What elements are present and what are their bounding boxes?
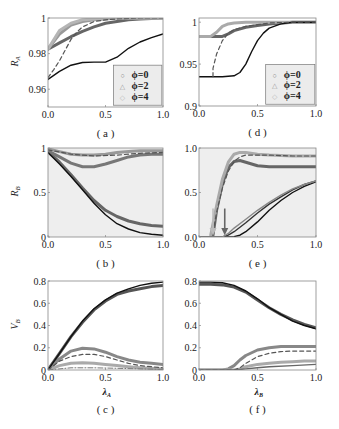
x-tick-label: 0.5 xyxy=(251,239,264,250)
y-tick-label: 1.0 xyxy=(185,143,198,154)
panel-f: 0.00.51.000.20.40.60.8λB( f ) xyxy=(185,276,323,417)
x-tick-label: 1.0 xyxy=(157,109,170,120)
x-tick-label: 0.5 xyxy=(99,372,112,383)
y-tick-label: 0.5 xyxy=(185,187,198,198)
panel-e: 0.00.51.00.00.51.0( e ) xyxy=(185,143,323,271)
x-tick-label: 1.0 xyxy=(310,239,323,250)
y-tick-label: 1 xyxy=(192,17,197,28)
y-tick-label: 0 xyxy=(192,365,197,376)
legend-marker-icon: △ xyxy=(272,82,278,90)
legend-label: ϕ=0 xyxy=(284,69,301,80)
plot-area xyxy=(199,148,316,237)
legend: ○ϕ=0△ϕ=2◇ϕ=4 xyxy=(266,65,315,105)
x-tick-label: 1.0 xyxy=(310,372,323,383)
legend-label: ϕ=4 xyxy=(284,90,301,101)
panel-caption: ( d ) xyxy=(248,126,267,139)
panel-caption: ( f ) xyxy=(249,403,266,416)
panel-d: 0.00.51.00.90.951( d )○ϕ=0△ϕ=2◇ϕ=4 xyxy=(180,17,323,139)
x-axis-label: λA xyxy=(102,386,111,398)
panel-c: 0.00.51.000.20.40.60.8VBλA( c ) xyxy=(9,276,169,417)
y-tick-label: 0.6 xyxy=(34,298,47,309)
y-tick-label: 0.8 xyxy=(185,276,198,287)
y-tick-label: 0.4 xyxy=(34,320,47,331)
legend-marker-icon: ◇ xyxy=(120,94,126,102)
legend-marker-icon: ◇ xyxy=(272,93,278,101)
panel-caption: ( e ) xyxy=(249,257,267,270)
y-tick-label: 0.5 xyxy=(34,187,47,198)
x-tick-label: 0.5 xyxy=(99,109,112,120)
y-axis-label: RB xyxy=(9,185,22,197)
panel-caption: ( b ) xyxy=(96,257,115,270)
y-tick-label: 0.8 xyxy=(34,276,47,287)
legend-marker-icon: ○ xyxy=(120,72,124,80)
legend-marker-icon: ○ xyxy=(273,72,277,80)
panel-a: 0.00.51.00.960.981RA( a )○ϕ=0△ϕ=2◇ϕ=4 xyxy=(9,13,169,141)
y-tick-label: 0.2 xyxy=(185,342,198,353)
x-tick-label: 1.0 xyxy=(157,239,170,250)
x-tick-label: 1.0 xyxy=(310,108,323,119)
y-tick-label: 0.6 xyxy=(185,298,198,309)
y-tick-label: 1 xyxy=(41,143,46,154)
legend-label: ϕ=4 xyxy=(132,91,149,102)
panel-caption: ( a ) xyxy=(97,127,115,140)
y-tick-label: 0 xyxy=(41,365,46,376)
y-tick-label: 0.98 xyxy=(29,48,47,59)
legend-label: ϕ=0 xyxy=(132,69,149,80)
x-tick-label: 0.5 xyxy=(251,108,264,119)
y-tick-label: 1 xyxy=(41,13,46,24)
y-tick-label: 0.96 xyxy=(29,84,47,95)
y-tick-label: 0.95 xyxy=(180,59,198,70)
y-tick-label: 0 xyxy=(41,232,46,243)
panel-b: 0.00.51.000.51RB( b ) xyxy=(9,143,169,271)
plot-area xyxy=(199,281,316,370)
y-tick-label: 0.0 xyxy=(185,232,198,243)
y-tick-label: 0.2 xyxy=(34,342,47,353)
y-tick-label: 0.9 xyxy=(185,101,198,112)
y-tick-label: 0.4 xyxy=(185,320,198,331)
figure: 0.00.51.00.960.981RA( a )○ϕ=0△ϕ=2◇ϕ=40.0… xyxy=(0,0,339,429)
y-axis-label: RA xyxy=(9,55,22,67)
panel-caption: ( c ) xyxy=(97,403,115,416)
x-tick-label: 0.0 xyxy=(42,109,55,120)
x-axis-label: λB xyxy=(254,386,263,398)
x-tick-label: 0.5 xyxy=(99,239,112,250)
x-tick-label: 1.0 xyxy=(157,372,170,383)
x-tick-label: 0.5 xyxy=(251,372,264,383)
legend: ○ϕ=0△ϕ=2◇ϕ=4 xyxy=(114,65,162,105)
legend-marker-icon: △ xyxy=(120,83,126,91)
y-axis-label: VB xyxy=(9,318,22,329)
legend-label: ϕ=2 xyxy=(284,79,301,90)
legend-label: ϕ=2 xyxy=(132,80,149,91)
